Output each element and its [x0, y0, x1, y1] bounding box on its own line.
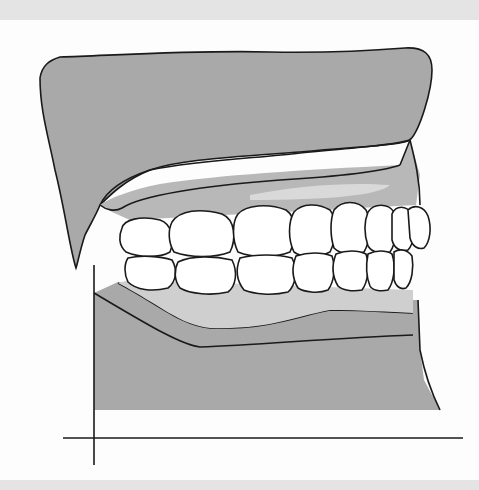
dental-model-diagram: [0, 0, 479, 490]
lower-teeth: [125, 250, 413, 294]
